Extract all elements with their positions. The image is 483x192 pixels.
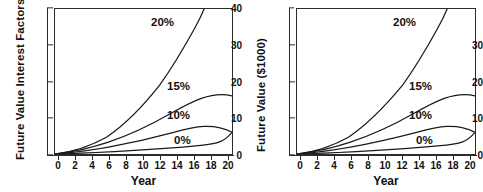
series-label-0-percent-left: 0% [174, 134, 191, 146]
y-tick-label-right-0: 0 [441, 150, 483, 161]
series-label-10-percent-left: 10% [167, 109, 190, 121]
y-tick-label-left-0: 0 [200, 150, 242, 161]
x-tick-label-left-18: 18 [205, 160, 216, 171]
y-tick-mark-right-20 [289, 81, 295, 82]
y-tick-label-left-40: 40 [200, 3, 242, 14]
y-axis-title-left: Future Value Interest Factors [14, 0, 26, 160]
x-tick-label-right-14: 14 [413, 160, 424, 171]
x-tick-label-right-2: 2 [314, 160, 320, 171]
x-tick-label-right-8: 8 [365, 160, 371, 171]
y-axis-title-right: Future Value ($1000) [255, 38, 267, 152]
y-tick-mark-left-30 [47, 44, 53, 45]
y-tick-mark-right-30 [289, 44, 295, 45]
y-tick-mark-left-0 [47, 154, 53, 155]
series-label-20-percent-right: 20% [393, 16, 416, 28]
series-label-0-percent-right: 0% [416, 134, 433, 146]
x-axis-title-right: Year [296, 174, 476, 188]
y-tick-mark-left-20 [47, 81, 53, 82]
x-tick-label-left-0: 0 [55, 160, 61, 171]
x-tick-label-right-6: 6 [348, 160, 354, 171]
y-tick-mark-right-10 [289, 117, 295, 118]
y-tick-label-right-30: 30 [441, 40, 483, 51]
y-tick-label-left-20: 20 [200, 76, 242, 87]
x-tick-label-right-12: 12 [396, 160, 407, 171]
y-tick-label-left-10: 10 [200, 113, 242, 124]
series-label-20-percent-left: 20% [151, 16, 174, 28]
y-tick-label-left-30: 30 [200, 40, 242, 51]
x-tick-label-right-16: 16 [430, 160, 441, 171]
y-tick-label-right-20: 20 [441, 76, 483, 87]
y-tick-mark-left-10 [47, 117, 53, 118]
chart-panel-left: Future Value Interest Factors 20% 15% 10… [0, 0, 242, 192]
x-tick-label-left-20: 20 [222, 160, 233, 171]
x-tick-label-left-12: 12 [154, 160, 165, 171]
x-tick-label-left-4: 4 [89, 160, 95, 171]
x-tick-label-left-14: 14 [171, 160, 182, 171]
y-tick-label-right-10: 10 [441, 113, 483, 124]
x-tick-label-left-6: 6 [106, 160, 112, 171]
x-tick-label-left-16: 16 [188, 160, 199, 171]
x-tick-label-right-4: 4 [331, 160, 337, 171]
chart-panel-right: Future Value ($1000) 20% 15% 10% 0% 0 10… [242, 0, 483, 192]
series-label-15-percent-right: 15% [409, 80, 432, 92]
x-tick-label-right-0: 0 [297, 160, 303, 171]
y-tick-mark-right-top [289, 7, 294, 8]
x-tick-label-right-18: 18 [447, 160, 458, 171]
x-tick-label-right-20: 20 [464, 160, 475, 171]
series-label-15-percent-left: 15% [167, 80, 190, 92]
x-tick-label-left-2: 2 [72, 160, 78, 171]
x-tick-label-left-8: 8 [123, 160, 129, 171]
two-panel-future-value-figure: Future Value Interest Factors 20% 15% 10… [0, 0, 483, 192]
x-tick-label-right-10: 10 [379, 160, 390, 171]
y-tick-mark-right-0 [289, 154, 295, 155]
series-label-10-percent-right: 10% [409, 109, 432, 121]
x-tick-label-left-10: 10 [137, 160, 148, 171]
y-tick-mark-left-40 [47, 7, 53, 8]
x-axis-title-left: Year [54, 174, 233, 188]
